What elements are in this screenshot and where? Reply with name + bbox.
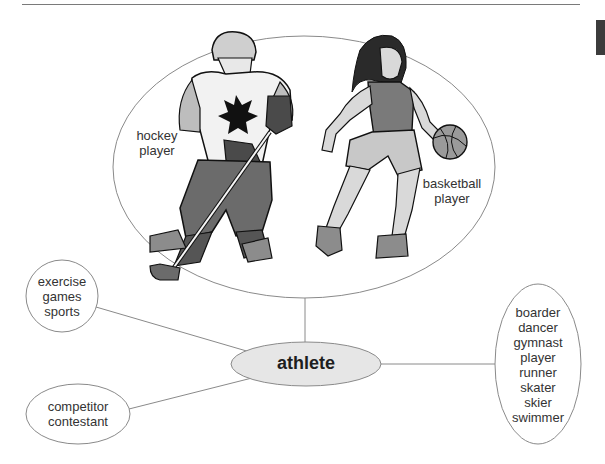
picture-ellipse <box>113 36 495 298</box>
connector-activities <box>96 307 250 352</box>
basketball-player-label: basketball player <box>410 176 494 206</box>
node-item: skater <box>496 380 580 395</box>
node-item: runner <box>496 365 580 380</box>
types-node: boarder dancer gymnast player runner ska… <box>496 305 580 425</box>
connector-people <box>125 378 252 410</box>
node-item: sports <box>26 304 98 319</box>
node-item: competitor <box>26 399 130 414</box>
node-item: dancer <box>496 320 580 335</box>
label-line: player <box>410 191 494 206</box>
node-item: exercise <box>26 274 98 289</box>
node-item: swimmer <box>496 410 580 425</box>
node-item: games <box>26 289 98 304</box>
label-line: hockey <box>122 128 192 143</box>
node-item: player <box>496 350 580 365</box>
center-node-label: athlete <box>231 353 381 374</box>
node-item: skier <box>496 395 580 410</box>
node-item: boarder <box>496 305 580 320</box>
hockey-player-label: hockey player <box>122 128 192 158</box>
node-item: gymnast <box>496 335 580 350</box>
people-node: competitor contestant <box>26 399 130 429</box>
activities-node: exercise games sports <box>26 274 98 319</box>
label-line: player <box>122 143 192 158</box>
label-line: basketball <box>410 176 494 191</box>
node-item: contestant <box>26 414 130 429</box>
basketball-player-illustration <box>316 35 467 258</box>
